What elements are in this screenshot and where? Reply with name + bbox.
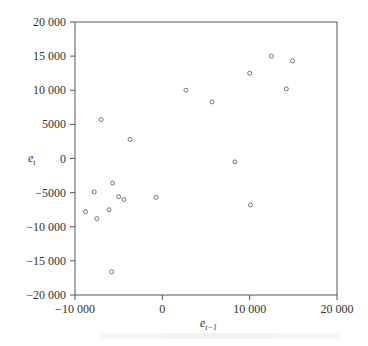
y-tick-label: −20 000 [26,288,66,302]
data-point [117,195,121,199]
y-tick-label: 0 [60,152,66,166]
x-axis-ticks: −10 000010 00020 000 [55,295,353,316]
y-axis-label: et [28,151,36,167]
x-tick-label: 0 [159,302,165,316]
data-point [128,137,132,141]
data-point [154,195,158,199]
data-point [95,217,99,221]
data-point [107,208,111,212]
x-tick-label: 10 000 [233,302,266,316]
data-point [111,181,115,185]
y-tick-label: −15 000 [26,254,66,268]
plot-frame [75,22,337,295]
y-tick-label: 15 000 [33,49,66,63]
x-tick-label: 20 000 [321,302,354,316]
data-point [248,71,252,75]
data-point [92,190,96,194]
x-axis-label: et−1 [200,316,217,332]
data-points [83,54,294,274]
data-point [184,88,188,92]
figure-caption-blurred [100,333,340,339]
data-point [83,210,87,214]
data-point [249,203,253,207]
scatter-chart: 20 00015 00010 00050000−5000−10 000−15 0… [0,0,368,346]
data-point [270,54,274,58]
y-tick-label: −10 000 [26,220,66,234]
data-point [210,100,214,104]
data-point [233,160,237,164]
data-point [99,118,103,122]
data-point [290,59,294,63]
x-tick-label: −10 000 [55,302,95,316]
y-tick-label: 5000 [42,117,66,131]
data-point [122,197,126,201]
data-point [284,87,288,91]
y-tick-label: 10 000 [33,83,66,97]
plot-border [75,22,337,295]
y-tick-label: −5000 [35,186,66,200]
y-tick-label: 20 000 [33,15,66,29]
data-point [110,270,114,274]
